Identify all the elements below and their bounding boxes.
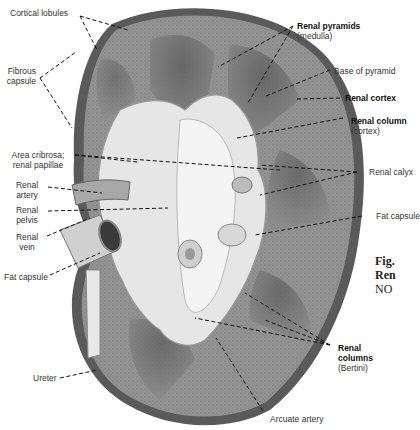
label-renal-vein: Renal vein (12, 232, 42, 252)
caption-line-1: Fig. (375, 254, 396, 268)
label-renal-pelvis: Renal pelvis (12, 205, 42, 225)
label-area-cribrosa: Area cribrosa; renal papillae (8, 150, 68, 170)
label-renal-pyramids: Renal pyramids (medulla) (297, 21, 360, 41)
label-renal-pyramids-main: Renal pyramids (297, 21, 360, 31)
label-arcuate-artery: Arcuate artery (270, 414, 323, 424)
ureter (86, 270, 100, 358)
figure-caption: Fig. Ren NO (375, 254, 396, 296)
label-renal-columns-main: Renal columns (338, 343, 378, 363)
label-fat-capsule-left: Fat capsule (4, 272, 48, 282)
label-renal-column-sub: (cortex) (351, 126, 407, 136)
caption-line-3: NO (375, 282, 396, 296)
label-cortical-lobules: Cortical lobules (10, 8, 68, 18)
label-renal-pyramids-sub: (medulla) (297, 31, 360, 41)
label-renal-columns-sub: (Bertini) (338, 363, 378, 373)
label-renal-artery: Renal artery (12, 180, 42, 200)
label-ureter: Ureter (33, 373, 57, 383)
label-base-of-pyramid: Base of pyramid (334, 66, 395, 76)
label-renal-column: Renal column (cortex) (351, 116, 407, 136)
label-renal-column-main: Renal column (351, 116, 407, 126)
label-renal-calyx: Renal calyx (369, 167, 413, 177)
label-renal-cortex: Renal cortex (345, 93, 396, 103)
caption-line-2: Ren (375, 268, 396, 282)
label-fat-capsule-right: Fat capsule (376, 211, 420, 221)
label-fibrous-capsule: Fibrous capsule (4, 66, 36, 86)
label-renal-columns: Renal columns (Bertini) (338, 343, 378, 373)
